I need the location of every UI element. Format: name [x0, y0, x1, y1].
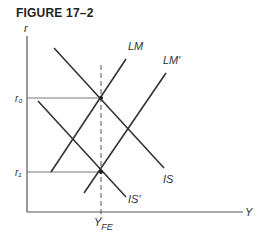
is-label: IS	[163, 173, 174, 185]
yfe-label: YFE	[94, 216, 114, 232]
is-prime-label: IS′	[128, 193, 141, 205]
equilibrium-point-r1	[99, 170, 103, 174]
lm-prime-label: LM′	[163, 54, 181, 66]
lm-label: LM	[128, 40, 144, 52]
r0-label: r₀	[15, 93, 23, 104]
equilibrium-point-r0	[99, 96, 103, 100]
lm-prime-curve	[84, 73, 166, 193]
x-axis-label: Y	[245, 206, 253, 218]
r1-label: r₁	[15, 167, 21, 178]
islm-diagram: r Y r₀ r₁ YFE IS IS′ LM LM′	[0, 0, 260, 240]
is-curve	[54, 48, 164, 168]
is-prime-curve	[38, 101, 126, 197]
y-axis-label: r	[24, 22, 29, 34]
